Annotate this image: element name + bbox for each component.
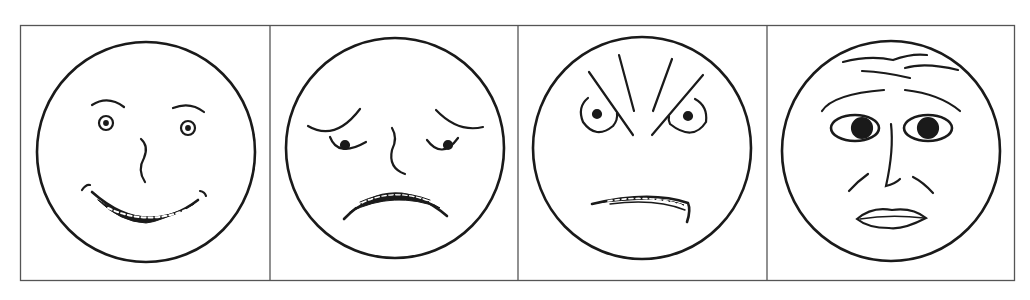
sad-face-icon <box>286 38 504 258</box>
panel-frame <box>21 25 1015 281</box>
happy-face-icon <box>37 42 255 262</box>
fearful-face-icon <box>782 41 1000 261</box>
angry-face-icon <box>533 37 751 259</box>
emotion-faces-figure <box>0 0 1030 300</box>
